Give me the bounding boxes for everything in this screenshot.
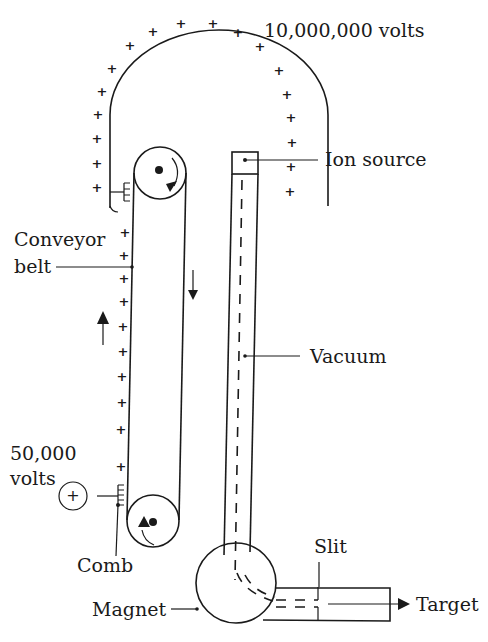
svg-text:+: +: [92, 131, 103, 146]
svg-text:+: +: [116, 422, 127, 437]
svg-text:+: +: [118, 344, 129, 359]
svg-text:+: +: [286, 110, 297, 125]
belt-arrow-up: [97, 311, 109, 345]
svg-text:+: +: [119, 294, 130, 309]
svg-text:+: +: [107, 61, 118, 76]
svg-text:+: +: [117, 395, 128, 410]
svg-text:+: +: [125, 38, 136, 53]
comb-label: Comb: [77, 554, 133, 576]
svg-text:+: +: [274, 63, 285, 78]
upper-pulley: [134, 147, 186, 199]
vacuum-label: Vacuum: [309, 345, 386, 367]
svg-text:+: +: [92, 180, 103, 195]
conveyor-belt-label: Conveyor: [14, 228, 106, 250]
voltage-supply: +: [59, 482, 87, 510]
svg-text:+: +: [120, 225, 131, 240]
svg-text:+: +: [287, 135, 298, 150]
magnet-label: Magnet: [92, 598, 166, 620]
svg-text:+: +: [233, 25, 244, 40]
lower-comb: [97, 485, 124, 556]
svg-text:+: +: [208, 16, 219, 31]
svg-text:+: +: [117, 369, 128, 384]
belt-arrow-down: [188, 270, 198, 300]
vacuum-leader-dot: [243, 354, 247, 358]
conveyor-belt: [127, 173, 186, 520]
van-de-graaff-diagram: + + + + + + + + + + + + + + + + + +: [0, 0, 488, 642]
svg-text:+: +: [148, 24, 159, 39]
svg-text:+: +: [286, 159, 297, 174]
svg-text:+: +: [118, 319, 129, 334]
svg-text:+: +: [282, 87, 293, 102]
conveyor-belt-leader-dot: [130, 265, 134, 269]
beam-tube: [263, 587, 410, 621]
svg-text:+: +: [176, 16, 187, 31]
svg-text:+: +: [92, 156, 103, 171]
supply-voltage-label: 50,000: [10, 442, 76, 464]
conveyor-belt-label-2: belt: [14, 255, 51, 277]
svg-text:+: +: [119, 248, 130, 263]
svg-text:+: +: [116, 459, 127, 474]
slit-label: Slit: [314, 535, 347, 557]
accelerator-tube: [224, 152, 258, 580]
svg-text:+: +: [93, 107, 104, 122]
terminal-voltage-label: 10,000,000 volts: [264, 19, 424, 41]
svg-text:+: +: [66, 486, 79, 505]
dome-charges: + + + + + + + + + + + + + + + + + +: [92, 16, 298, 199]
svg-text:+: +: [119, 271, 130, 286]
magnet-leader-dot: [195, 607, 199, 611]
svg-text:+: +: [97, 84, 108, 99]
magnet: [196, 543, 276, 623]
lower-pulley: [127, 495, 179, 547]
svg-text:+: +: [255, 39, 266, 54]
supply-voltage-label-2: volts: [9, 467, 56, 489]
upper-comb: [110, 183, 130, 212]
target-label: Target: [416, 593, 479, 615]
svg-text:+: +: [285, 184, 296, 199]
ion-source-label: Ion source: [325, 148, 427, 170]
